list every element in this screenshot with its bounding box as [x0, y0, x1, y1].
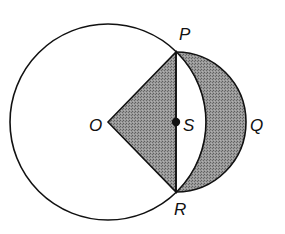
- shaded-triangle-OPR: [108, 52, 176, 192]
- label-R: R: [174, 200, 186, 219]
- label-Q: Q: [250, 116, 263, 135]
- label-O: O: [89, 116, 102, 135]
- label-P: P: [179, 25, 191, 44]
- diagram-canvas: P R O S Q: [0, 0, 285, 234]
- label-S: S: [183, 116, 195, 135]
- geometry-diagram: P R O S Q: [0, 0, 285, 234]
- point-S-dot: [172, 118, 180, 126]
